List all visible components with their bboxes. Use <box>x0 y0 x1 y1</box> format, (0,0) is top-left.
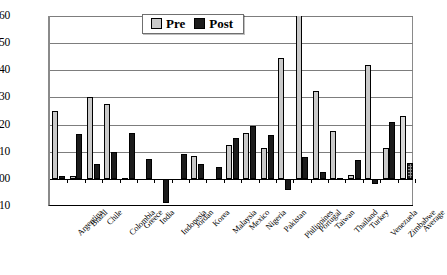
bar-post <box>129 133 135 179</box>
bar-post <box>181 154 187 178</box>
bar-pre <box>104 104 110 179</box>
bar-pre <box>278 58 284 179</box>
bar-post <box>111 152 117 179</box>
x-axis-tick-mark <box>241 179 242 183</box>
bar-post <box>372 179 378 184</box>
bar-pre <box>243 133 249 179</box>
bar-post <box>216 167 222 179</box>
bar-post <box>268 135 274 178</box>
legend-swatch-post-icon <box>194 18 205 29</box>
x-axis-tick-mark <box>380 179 381 183</box>
y-axis-tick-label: 0.20 <box>0 119 10 131</box>
bar-pre <box>383 148 389 179</box>
x-axis-tick-mark <box>259 179 260 183</box>
bar-post <box>320 172 326 179</box>
bar-post <box>94 164 100 179</box>
x-axis-tick-mark <box>85 179 86 183</box>
x-axis-tick-mark <box>363 179 364 183</box>
bars-layer <box>50 16 413 205</box>
bar-pre <box>226 145 232 179</box>
bar-pre <box>400 116 406 178</box>
x-axis-category-label: Chile <box>106 208 125 227</box>
x-axis-labels: ArgentinaBrazilChileColombiaGreeceIndiaI… <box>48 208 413 270</box>
x-axis-tick-mark <box>415 179 416 183</box>
bar-pre <box>330 131 336 179</box>
x-axis-tick-mark <box>293 179 294 183</box>
bar-post <box>302 157 308 179</box>
x-axis-tick-mark <box>398 179 399 183</box>
bar-post <box>337 178 343 180</box>
bar-post <box>355 160 361 179</box>
x-axis-tick-mark <box>328 179 329 183</box>
legend-swatch-pre-icon <box>151 18 162 29</box>
legend-label-post: Post <box>209 17 233 30</box>
x-axis-tick-mark <box>102 179 103 183</box>
bar-pre <box>70 176 76 179</box>
x-axis-tick-mark <box>154 179 155 183</box>
y-axis-tick-label: 0.60 <box>0 10 10 22</box>
x-axis-category-label: Korea <box>211 208 231 228</box>
bar-pre <box>52 111 58 179</box>
bar-post <box>250 126 256 179</box>
y-axis-tick-label: 0.10 <box>0 146 10 158</box>
bar-post <box>146 159 152 179</box>
x-axis-tick-mark <box>120 179 121 183</box>
bar-pre <box>122 178 128 180</box>
y-axis-tick-label: 0.40 <box>0 64 10 76</box>
x-axis-tick-mark <box>345 179 346 183</box>
x-axis-tick-mark <box>224 179 225 183</box>
bar-post <box>389 122 395 179</box>
bar-post <box>59 176 65 179</box>
x-axis-tick-mark <box>137 179 138 183</box>
bar-post <box>76 134 82 179</box>
bar-pre <box>261 148 267 179</box>
bar-pre <box>348 175 354 179</box>
bar-post <box>198 164 204 179</box>
bar-post <box>163 179 169 203</box>
x-axis-tick-mark <box>311 179 312 183</box>
x-axis-tick-mark <box>189 179 190 183</box>
y-axis-tick-label: 0.30 <box>0 91 10 103</box>
y-axis-tick-label: -0.10 <box>0 200 10 212</box>
x-axis-tick-mark <box>276 179 277 183</box>
y-axis-tick-label: 0.50 <box>0 37 10 49</box>
bar-pre <box>365 65 371 179</box>
bar-pre <box>296 16 302 179</box>
bar-post <box>407 163 413 179</box>
bar-post <box>285 179 291 190</box>
plot-area <box>48 16 413 206</box>
bar-post <box>233 138 239 179</box>
y-axis-tick-label: 0.00 <box>0 173 10 185</box>
x-axis-tick-mark <box>172 179 173 183</box>
chart-legend: Pre Post <box>142 14 244 34</box>
x-axis-tick-mark <box>67 179 68 183</box>
bar-pre <box>191 156 197 179</box>
bar-pre <box>87 97 93 178</box>
legend-item-pre: Pre <box>151 17 185 30</box>
x-axis-tick-mark <box>206 179 207 183</box>
legend-label-pre: Pre <box>166 17 185 30</box>
bar-pre <box>313 91 319 179</box>
legend-item-post: Post <box>194 17 233 30</box>
